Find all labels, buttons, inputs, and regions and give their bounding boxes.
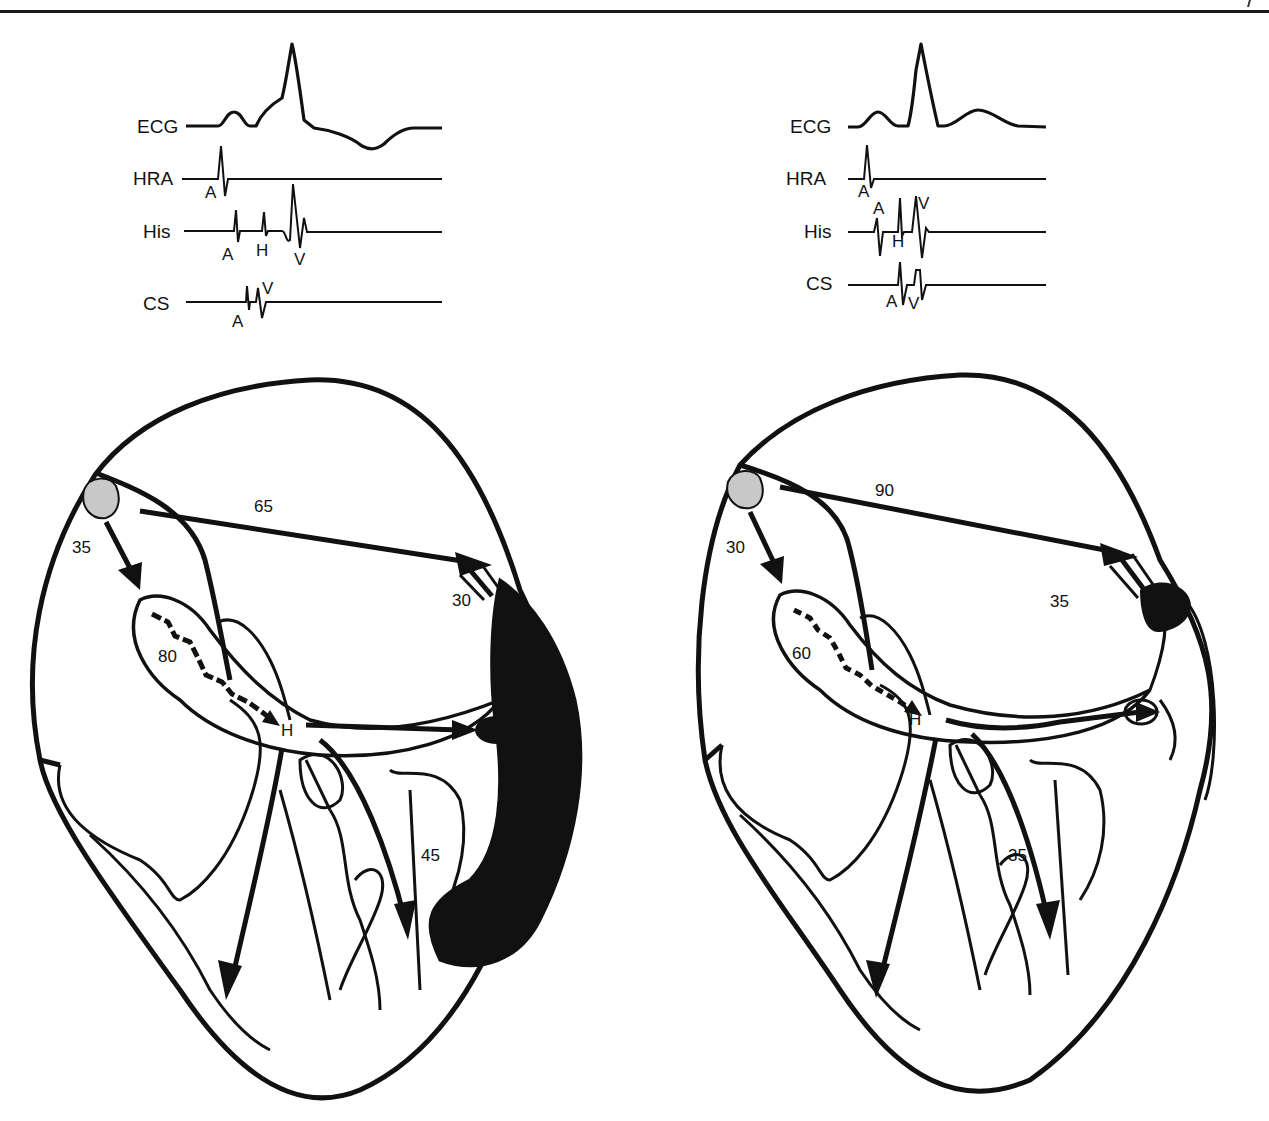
right-ecg-waveform [848,44,1046,127]
right-hra-waveform [848,145,1046,188]
left-ventricular-time: 45 [421,846,440,865]
left-his-waveform [184,184,442,248]
right-heart-diagram: 30 90 60 35 H 35 [698,375,1214,1091]
left-heart-diagram: 35 65 80 30 H 45 [32,380,580,1098]
left-av-node-time: 80 [158,647,177,666]
left-ecg-waveform [186,44,442,149]
left-cs-marker-a: A [232,312,244,331]
left-trace-label-hra: HRA [133,168,173,189]
left-lateral-av-time: 30 [452,591,471,610]
left-trace-label-his: His [143,221,170,242]
right-sa-to-lateral-time: 90 [875,481,894,500]
right-his-label: H [909,710,921,729]
right-sa-node [727,471,763,508]
right-trace-label-cs: CS [806,273,832,294]
left-sa-node [83,479,119,519]
left-hra-waveform [182,146,442,196]
right-electrograms: ECG HRA A His A H V CS A V [786,44,1046,313]
right-trace-label-his: His [804,221,831,242]
left-preexcited-region [430,580,581,966]
left-sa-to-av-time: 35 [72,538,91,557]
left-his-label: H [281,721,293,740]
right-cs-waveform [848,262,1046,305]
right-cs-marker-v: V [908,294,920,313]
right-his-marker-a: A [873,199,885,218]
right-hra-marker-a: A [858,182,870,201]
left-his-marker-v: V [294,250,306,269]
right-cs-marker-a: A [886,292,898,311]
left-trace-label-ecg: ECG [137,116,178,137]
right-heart-outline [698,375,1211,1091]
right-ventricular-time: 35 [1008,846,1027,865]
left-his-marker-a: A [222,245,234,264]
left-trace-label-cs: CS [143,293,169,314]
left-cs-marker-v: V [262,279,274,298]
right-trace-label-hra: HRA [786,168,826,189]
right-his-marker-v: V [918,194,930,213]
figure-canvas: ECG HRA A His A H V CS A V ECG HRA A His… [0,0,1269,1121]
right-av-node-time: 60 [792,644,811,663]
left-cs-waveform [186,286,442,318]
left-hra-marker-a: A [205,183,217,202]
right-lateral-av-time: 35 [1050,592,1069,611]
left-his-marker-h: H [256,241,268,260]
right-sa-to-av-time: 30 [726,538,745,557]
right-trace-label-ecg: ECG [790,116,831,137]
left-sa-to-lateral-time: 65 [254,497,273,516]
left-electrograms: ECG HRA A His A H V CS A V [133,44,442,331]
right-his-marker-h: H [892,232,904,251]
